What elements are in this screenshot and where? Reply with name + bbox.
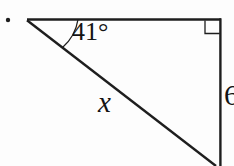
hypotenuse-label: x xyxy=(98,88,111,117)
right-triangle-drawing xyxy=(0,0,234,166)
triangle-hypotenuse xyxy=(27,20,216,166)
list-bullet-dot xyxy=(6,18,10,22)
geometry-figure: 41° x 6 xyxy=(0,0,234,166)
angle-label: 41° xyxy=(72,19,108,45)
side-label: 6 xyxy=(224,80,234,110)
right-angle-marker-icon xyxy=(205,21,220,34)
